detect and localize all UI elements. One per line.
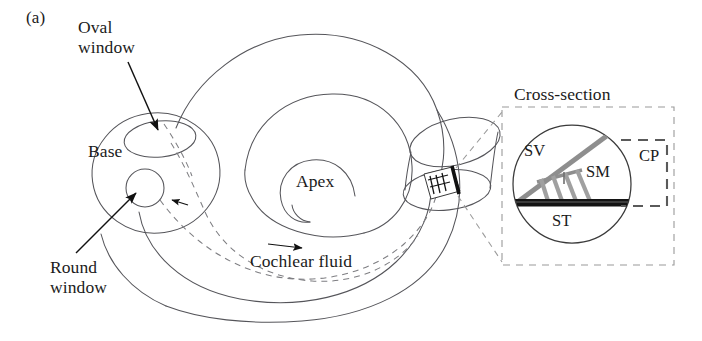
- label-cross-section-title: Cross-section: [514, 85, 611, 105]
- spiral-second-turn-upper: [245, 94, 412, 233]
- inset-leader-lines: [456, 112, 502, 262]
- panel-label: (a): [26, 8, 45, 27]
- inset-leader-lower: [458, 196, 502, 262]
- fluid-arrow-return: [172, 200, 188, 205]
- label-scala-tympani: ST: [552, 212, 571, 230]
- fluid-path-hidden-base-edge: [164, 124, 192, 176]
- label-base: Base: [88, 142, 122, 162]
- label-scala-vestibuli: SV: [524, 142, 545, 160]
- label-round-window: Round window: [50, 258, 107, 297]
- label-cochlear-fluid: Cochlear fluid: [250, 252, 352, 272]
- right-duct-upper-rim: [405, 109, 505, 175]
- round-window-arrow: [76, 193, 136, 253]
- label-apex: Apex: [296, 172, 334, 192]
- inset-leader-upper: [456, 112, 502, 168]
- fluid-arrow-main: [268, 244, 302, 248]
- oval-window-arrow: [128, 62, 158, 130]
- label-scala-media: SM: [586, 163, 610, 181]
- cross-section-marker: [424, 166, 460, 199]
- label-cochlear-partition: CP: [639, 147, 659, 165]
- label-oval-window: Oval window: [78, 18, 135, 57]
- oval-window-shape: [122, 117, 197, 160]
- spiral-outer-bottom-wall: [101, 234, 166, 306]
- round-window-shape: [126, 169, 164, 207]
- basilar-membrane-texture: [507, 201, 637, 203]
- fluid-direction-arrows: [172, 200, 302, 248]
- figure-panel: (a) Oval window Base Round window Apex C…: [0, 0, 702, 341]
- right-duct-wall-right: [490, 132, 498, 188]
